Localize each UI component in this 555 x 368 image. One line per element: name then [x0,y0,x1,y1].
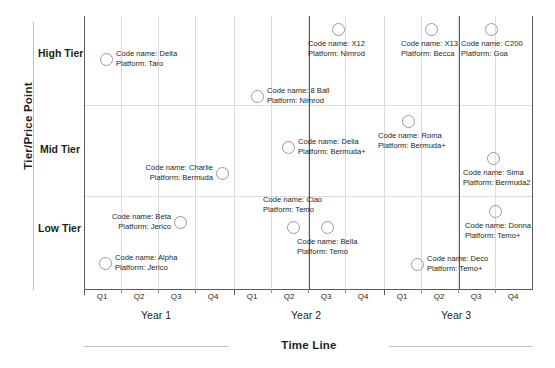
data-point-code-name: Code name: X12 [308,39,365,48]
data-point-marker[interactable] [485,23,498,36]
data-point-code-name: Code name: 8 Ball [267,86,329,95]
data-point-code-name: Code name: X13 [401,39,458,48]
data-point-platform: Platform: Bermuda+ [378,141,446,150]
data-point-platform: Platform: Bermuda2 [463,178,531,187]
data-point-platform: Platform: Temo [297,247,348,256]
chart-canvas: Tier/Price Point High TierMid TierLow Ti… [0,0,555,368]
x-axis-year-label: Year 3 [401,309,511,321]
data-point-marker[interactable] [174,216,187,229]
data-point-marker[interactable] [282,141,295,154]
x-axis-tick [384,289,385,295]
data-point-code-name: Code name: Deco [427,254,488,263]
x-axis-tick [195,289,196,293]
data-point-marker[interactable] [251,90,264,103]
quarter-gridline [271,16,272,290]
data-point-marker[interactable] [216,167,229,180]
data-point-label: Code name: X13Platform: Becca [401,39,458,59]
plot-frame-left [84,16,85,290]
plot-frame-right [532,16,533,290]
x-axis-quarter-label: Q3 [462,292,490,301]
data-point-label: Code name: DeltaPlatform: Taro [116,49,177,69]
data-point-platform: Platform: Goa [461,49,508,58]
data-point-code-name: Code name: Bella [297,237,357,246]
x-axis-quarter-label: Q4 [199,292,227,301]
x-axis-year-label: Year 2 [251,309,361,321]
x-axis-tick [345,289,346,293]
data-point-label: Code name: AlphaPlatform: Jerico [115,253,177,273]
data-point-code-name: Code name: Ciao [263,195,322,204]
data-point-platform: Platform: Bermuda [150,173,213,182]
x-axis-quarter-label: Q3 [312,292,340,301]
data-point-code-name: Code name: Sima [463,168,524,177]
data-point-label: Code name: CharliePlatform: Bermuda [145,163,213,183]
data-point-label: Code name: BellaPlatform: Temo [297,237,357,257]
quarter-gridline [384,16,385,290]
data-point-code-name: Code name: Beta [112,212,171,221]
data-point-code-name: Code name: Delia [298,137,359,146]
data-point-marker[interactable] [489,205,502,218]
x-axis-title: Time Line [229,339,389,351]
data-point-marker[interactable] [425,23,438,36]
data-point-label: Code name: RomaPlatform: Bermuda+ [378,131,446,151]
x-axis-quarter-label: Q2 [425,292,453,301]
data-point-marker[interactable] [487,152,500,165]
data-point-platform: Platform: Nimrod [308,49,365,58]
x-axis-quarter-label: Q1 [388,292,416,301]
quarter-gridline [195,16,196,290]
data-point-code-name: Code name: Alpha [115,253,177,262]
y-axis-title: Tier/Price Point [22,46,34,206]
x-axis-quarter-label: Q1 [238,292,266,301]
data-point-marker[interactable] [402,115,415,128]
x-axis-quarter-label: Q4 [499,292,527,301]
x-axis-quarter-label: Q1 [88,292,116,301]
data-point-code-name: Code name: Charlie [145,163,213,172]
x-axis-tick [271,289,272,293]
y-axis-tier-label: High Tier [38,47,80,59]
data-point-label: Code name: X12Platform: Nimrod [308,39,365,59]
data-point-platform: Platform: Jerico [115,263,168,272]
data-point-platform: Platform: Temo+ [427,264,482,273]
data-point-marker[interactable] [287,221,300,234]
data-point-label: Code name: CiaoPlatform: Temo [263,195,322,215]
data-point-marker[interactable] [321,221,334,234]
x-axis-quarter-label: Q3 [162,292,190,301]
data-point-label: Code name: C200Platform: Goa [461,39,523,59]
data-point-platform: Platform: Temo+ [465,231,520,240]
data-point-platform: Platform: Nimrod [267,96,324,105]
x-axis-year-label: Year 1 [101,309,211,321]
data-point-marker[interactable] [332,23,345,36]
data-point-label: Code name: DonnaPlatform: Temo+ [465,221,531,241]
x-axis-quarter-label: Q4 [349,292,377,301]
x-axis-tick [421,289,422,293]
data-point-label: Code name: DecoPlatform: Temo+ [427,254,488,274]
year-separator-2 [459,16,460,290]
data-point-code-name: Code name: Donna [465,221,531,230]
x-axis-quarter-label: Q2 [125,292,153,301]
data-point-platform: Platform: Temo [263,205,314,214]
data-point-label: Code name: DeliaPlatform: Bermuda+ [298,137,366,157]
x-axis-tick [84,289,85,295]
y-axis-tier-label: Low Tier [38,222,80,234]
data-point-label: Code name: SimaPlatform: Bermuda2 [463,168,531,188]
data-point-code-name: Code name: C200 [461,39,523,48]
data-point-code-name: Code name: Delta [116,49,177,58]
x-axis-quarter-label: Q2 [275,292,303,301]
data-point-marker[interactable] [411,258,424,271]
data-point-platform: Platform: Bermuda+ [298,147,366,156]
data-point-marker[interactable] [100,53,113,66]
data-point-platform: Platform: Jerico [118,222,171,231]
data-point-label: Code name: BetaPlatform: Jerico [112,212,171,232]
data-point-marker[interactable] [99,257,112,270]
x-axis-tick [234,289,235,295]
data-point-label: Code name: 8 BallPlatform: Nimrod [267,86,329,106]
x-axis-tick [158,289,159,293]
quarter-gridline [234,16,235,290]
x-axis-tick [308,289,309,293]
x-axis-tick [458,289,459,293]
data-point-platform: Platform: Becca [401,49,455,58]
plot-area: Code name: DeltaPlatform: TaroCode name:… [84,16,533,290]
x-axis-tick [121,289,122,293]
data-point-code-name: Code name: Roma [378,131,442,140]
y-axis-tier-label: Mid Tier [38,143,80,155]
data-point-platform: Platform: Taro [116,59,163,68]
